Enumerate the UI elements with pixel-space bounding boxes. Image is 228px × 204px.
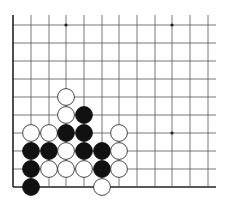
- black-stone: [76, 107, 93, 124]
- black-stone: [94, 161, 111, 178]
- white-stone: [76, 161, 93, 178]
- black-stone: [58, 125, 75, 142]
- white-stone: [23, 125, 40, 142]
- white-stone: [58, 107, 75, 124]
- go-board: [0, 0, 228, 204]
- white-stone: [41, 161, 58, 178]
- white-stone: [94, 179, 111, 196]
- black-stone: [23, 161, 40, 178]
- grid-lines: [13, 15, 216, 187]
- black-stone: [23, 179, 40, 196]
- star-point: [170, 131, 173, 134]
- black-stone: [76, 143, 93, 160]
- black-stone: [76, 125, 93, 142]
- black-stone: [94, 143, 111, 160]
- white-stone: [111, 161, 128, 178]
- black-stone: [41, 143, 58, 160]
- star-point: [64, 23, 67, 26]
- white-stone: [58, 89, 75, 106]
- white-stone: [58, 161, 75, 178]
- white-stone: [111, 125, 128, 142]
- white-stone: [58, 143, 75, 160]
- black-stone: [23, 143, 40, 160]
- white-stone: [111, 143, 128, 160]
- star-point: [170, 23, 173, 26]
- stones: [23, 89, 128, 196]
- white-stone: [41, 125, 58, 142]
